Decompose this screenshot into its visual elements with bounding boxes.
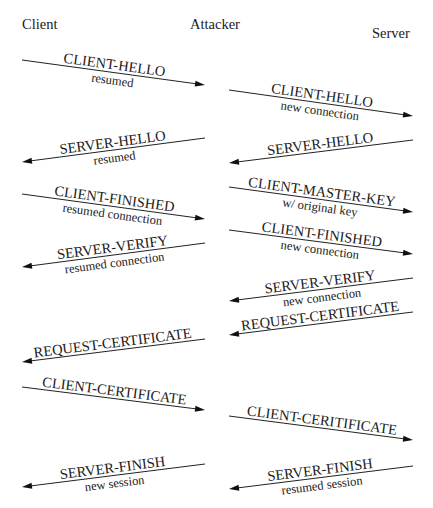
party-server-label: Server	[372, 25, 410, 41]
party-client-label: Client	[22, 16, 57, 32]
party-attacker-label: Attacker	[190, 16, 240, 32]
sequence-diagram: Client Attacker Server CLIENT-HELLOresum…	[0, 0, 433, 508]
